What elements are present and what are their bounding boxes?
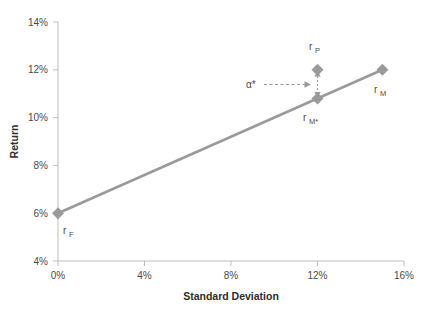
y-tick-label-5: 14% xyxy=(28,17,48,28)
y-axis-title: Return xyxy=(8,125,20,159)
y-tick-label-3: 10% xyxy=(28,112,48,123)
x-tick-label-0: 0% xyxy=(51,270,66,281)
alpha-annotation-label: α* xyxy=(246,79,256,90)
y-tick-label-0: 4% xyxy=(34,256,49,267)
y-tick-label-1: 6% xyxy=(34,208,49,219)
x-tick-label-2: 8% xyxy=(224,270,239,281)
x-tick-label-3: 12% xyxy=(307,270,327,281)
point-label-rF-sub: F xyxy=(69,230,74,239)
x-tick-label-4: 16% xyxy=(394,270,414,281)
x-tick-label-1: 4% xyxy=(137,270,152,281)
point-label-rP-sub: P xyxy=(315,46,320,55)
chart-background xyxy=(0,0,426,313)
y-tick-label-4: 12% xyxy=(28,64,48,75)
point-label-rM-sub: M xyxy=(380,89,386,98)
scatter-line-chart: 4% 6% 8% 10% 12% 14% 0% 4% 8% 12% 16% St… xyxy=(0,0,426,313)
chart-container: 4% 6% 8% 10% 12% 14% 0% 4% 8% 12% 16% St… xyxy=(0,0,426,313)
point-label-rM-star-sub: M* xyxy=(309,117,318,126)
x-axis-title: Standard Deviation xyxy=(183,290,279,302)
y-tick-label-2: 8% xyxy=(34,160,49,171)
